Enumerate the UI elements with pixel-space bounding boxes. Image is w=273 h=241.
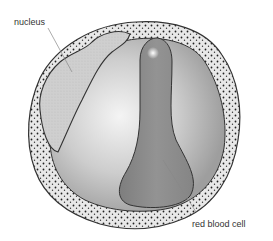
nucleus-label: nucleus xyxy=(14,17,46,27)
red-blood-cell-label: red blood cell xyxy=(192,219,246,229)
highlight xyxy=(147,47,159,59)
cell-diagram: nucleus red blood cell xyxy=(0,0,273,241)
